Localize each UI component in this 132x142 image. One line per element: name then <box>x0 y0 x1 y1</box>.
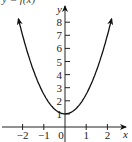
chart-plot: −2−101212345678 x y <box>0 0 132 142</box>
arrow-up-left-icon <box>18 19 19 23</box>
x-tick-label: 1 <box>83 129 89 141</box>
x-tick-label: −1 <box>38 129 50 141</box>
y-tick-label: 6 <box>57 42 63 54</box>
y-tick-label: 4 <box>57 69 63 81</box>
y-tick-label: 5 <box>57 56 63 68</box>
y-tick-label: 3 <box>57 82 63 94</box>
y-tick-label: 2 <box>57 95 63 107</box>
x-tick-label: 0 <box>58 129 64 141</box>
x-tick-label: 2 <box>105 129 111 141</box>
arrow-up-right-icon <box>111 19 112 23</box>
y-tick-label: 8 <box>57 16 63 28</box>
x-tick-label: −2 <box>17 129 29 141</box>
x-axis-label: x <box>122 128 128 140</box>
ticks: −2−101212345678 <box>17 16 110 141</box>
y-axis-label: y <box>56 3 62 15</box>
y-tick-label: 7 <box>57 29 63 41</box>
